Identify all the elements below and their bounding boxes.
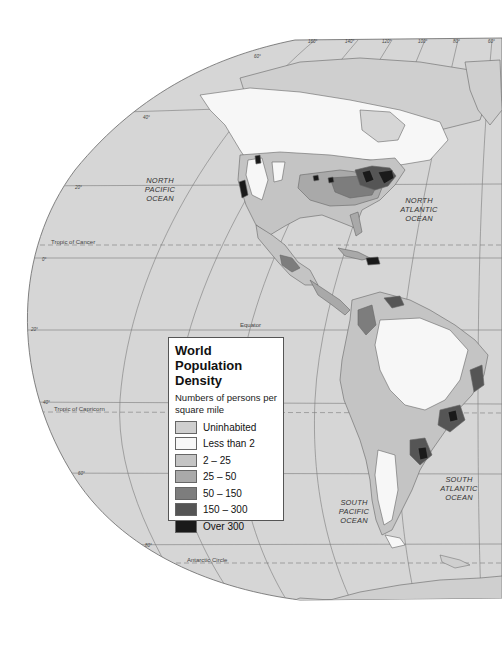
legend: World Population Density Numbers of pers… (168, 337, 284, 521)
legend-title: World Population Density (175, 343, 277, 388)
antarctic-circle-label: Antarctic Circle (187, 557, 227, 563)
latitude-label: 40° (143, 115, 150, 120)
legend-items: Uninhabited Less than 2 2 – 25 25 – 50 5… (175, 419, 277, 535)
longitude-label: 100° (418, 39, 427, 44)
legend-item-150-300: 150 – 300 (175, 502, 277, 519)
latitude-label: 60° (78, 471, 85, 476)
tropic-of-cancer-label: Tropic of Cancer (51, 239, 95, 245)
tropic-of-capricorn-label: Tropic of Capricorn (54, 406, 105, 412)
legend-swatch (175, 437, 197, 450)
legend-item-25-50: 25 – 50 (175, 469, 277, 486)
latitude-label: 0° (42, 257, 46, 262)
latitude-label: 80° (145, 543, 152, 548)
legend-label: 2 – 25 (203, 455, 231, 466)
latitude-label: 20° (31, 327, 38, 332)
legend-item-less-than-2: Less than 2 (175, 436, 277, 453)
legend-item-50-150: 50 – 150 (175, 485, 277, 502)
south-pacific-label: SOUTH PACIFIC OCEAN (334, 498, 374, 525)
latitude-label: 60° (254, 54, 261, 59)
legend-label: 25 – 50 (203, 471, 236, 482)
legend-item-uninhabited: Uninhabited (175, 419, 277, 436)
longitude-label: 80° (453, 39, 460, 44)
legend-swatch (175, 503, 197, 516)
south-atlantic-label: SOUTH ATLANTIC OCEAN (437, 475, 481, 502)
latitude-label: 40° (43, 400, 50, 405)
legend-label: Over 300 (203, 521, 244, 532)
legend-item-2-25: 2 – 25 (175, 452, 277, 469)
legend-label: 50 – 150 (203, 488, 242, 499)
longitude-label: 140° (345, 39, 354, 44)
north-pacific-label: NORTH PACIFIC OCEAN (140, 176, 180, 203)
legend-swatch (175, 421, 197, 434)
longitude-label: 120° (382, 39, 391, 44)
legend-swatch (175, 487, 197, 500)
legend-item-over-300: Over 300 (175, 518, 277, 535)
legend-swatch (175, 470, 197, 483)
legend-swatch (175, 454, 197, 467)
legend-subtitle: Numbers of persons per square mile (175, 392, 277, 416)
legend-label: Less than 2 (203, 438, 255, 449)
longitude-label: 160° (308, 39, 317, 44)
legend-label: 150 – 300 (203, 504, 248, 515)
longitude-label: 60° (488, 39, 495, 44)
equator-label: Equator (240, 322, 261, 328)
latitude-label: 20° (75, 185, 82, 190)
legend-label: Uninhabited (203, 422, 256, 433)
north-atlantic-label: NORTH ATLANTIC OCEAN (397, 196, 441, 223)
legend-swatch (175, 520, 197, 533)
